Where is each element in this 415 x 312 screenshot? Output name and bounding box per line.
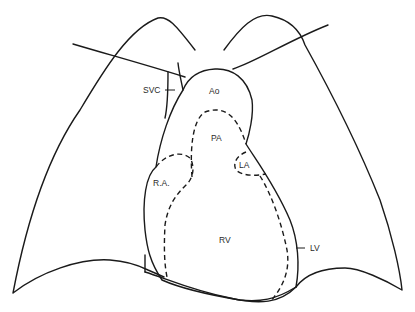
label-svc: SVC: [143, 85, 160, 95]
label-la: LA: [239, 160, 250, 170]
pa-outline: [191, 110, 246, 177]
ra-outline: [156, 154, 193, 277]
label-rv: RV: [219, 235, 231, 245]
heart-chest-diagram: SVC Ao PA LA R.A. RV LV: [0, 0, 415, 312]
label-pa: PA: [211, 133, 222, 143]
label-ao: Ao: [209, 86, 220, 96]
left-lung-outline: [13, 18, 195, 293]
svc-vessel-left: [165, 72, 168, 118]
label-ra: R.A.: [153, 178, 170, 188]
lv-inner-outline: [260, 176, 288, 302]
label-lv: LV: [310, 243, 320, 253]
